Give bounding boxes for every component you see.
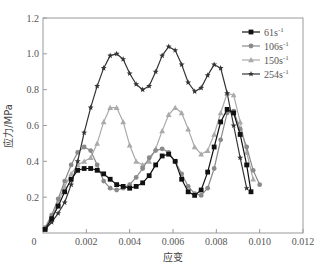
square-marker bbox=[62, 189, 67, 194]
circle-marker bbox=[244, 145, 249, 150]
star-marker bbox=[62, 199, 68, 205]
square-marker bbox=[49, 216, 54, 221]
legend-label: 150s-1 bbox=[264, 54, 289, 66]
square-marker bbox=[114, 182, 119, 187]
circle-marker bbox=[62, 179, 67, 184]
circle-marker bbox=[218, 137, 223, 142]
x-tick-label: 0.012 bbox=[292, 236, 315, 247]
star-marker bbox=[107, 53, 113, 59]
triangle-marker bbox=[211, 132, 217, 137]
square-marker bbox=[140, 180, 145, 185]
circle-marker bbox=[140, 166, 145, 171]
x-tick-label: 0.002 bbox=[75, 236, 98, 247]
y-tick-label: 0.6 bbox=[27, 120, 40, 131]
circle-marker bbox=[205, 186, 210, 191]
square-marker bbox=[166, 152, 171, 157]
y-tick-label: 0.2 bbox=[27, 192, 40, 203]
y-tick-label: 0.4 bbox=[27, 156, 40, 167]
square-marker bbox=[192, 193, 197, 198]
square-marker bbox=[249, 189, 254, 194]
legend-item: 106s-1 bbox=[242, 40, 289, 52]
stress-strain-chart: 0.0020.0040.0060.0080.0100.0120.20.40.60… bbox=[0, 0, 325, 274]
legend-label: 106s-1 bbox=[264, 40, 289, 52]
circle-marker bbox=[82, 145, 87, 150]
star-marker bbox=[185, 79, 191, 85]
legend-label: 61s-1 bbox=[264, 26, 284, 38]
circle-marker bbox=[251, 168, 256, 173]
triangle-marker bbox=[185, 126, 191, 131]
triangle-marker bbox=[205, 148, 211, 153]
square-marker bbox=[160, 154, 165, 159]
y-tick-label: 1.0 bbox=[27, 48, 40, 59]
square-marker bbox=[212, 145, 217, 150]
triangle-marker bbox=[133, 158, 139, 163]
square-marker bbox=[238, 132, 243, 137]
y-tick-label: 1.2 bbox=[27, 13, 40, 24]
square-marker bbox=[75, 168, 80, 173]
square-marker bbox=[127, 186, 132, 191]
square-marker bbox=[186, 189, 191, 194]
series-254s bbox=[42, 44, 249, 232]
square-marker bbox=[147, 173, 152, 178]
triangle-marker bbox=[192, 144, 198, 149]
triangle-marker bbox=[101, 119, 107, 124]
circle-marker bbox=[69, 163, 74, 168]
circle-marker bbox=[212, 166, 217, 171]
square-marker bbox=[179, 177, 184, 182]
triangle-marker bbox=[159, 128, 165, 133]
legend-item: 254s-1 bbox=[242, 68, 289, 80]
square-marker bbox=[56, 204, 61, 209]
square-marker bbox=[173, 159, 178, 164]
circle-marker bbox=[257, 182, 262, 187]
triangle-marker bbox=[250, 176, 256, 181]
triangle-marker bbox=[81, 158, 87, 163]
square-marker bbox=[101, 171, 106, 176]
legend-label: 254s-1 bbox=[264, 68, 289, 80]
circle-marker bbox=[199, 193, 204, 198]
circle-marker bbox=[160, 146, 165, 151]
square-marker bbox=[249, 30, 254, 35]
circle-marker bbox=[101, 179, 106, 184]
circle-marker bbox=[95, 163, 100, 168]
square-marker bbox=[231, 111, 236, 116]
triangle-marker bbox=[172, 105, 178, 110]
square-marker bbox=[108, 177, 113, 182]
square-marker bbox=[134, 184, 139, 189]
x-tick-label: 0.010 bbox=[248, 236, 271, 247]
x-tick-label: 0.006 bbox=[162, 236, 185, 247]
square-marker bbox=[69, 177, 74, 182]
square-marker bbox=[199, 188, 204, 193]
square-marker bbox=[121, 184, 126, 189]
circle-marker bbox=[108, 186, 113, 191]
square-marker bbox=[88, 166, 93, 171]
y-axis-title: 应力/MPa bbox=[2, 104, 14, 148]
star-marker bbox=[248, 71, 254, 77]
square-marker bbox=[244, 163, 249, 168]
circle-marker bbox=[153, 148, 158, 153]
legend-item: 150s-1 bbox=[242, 54, 289, 66]
square-marker bbox=[82, 166, 87, 171]
origin-label: 0 bbox=[32, 236, 37, 247]
circle-marker bbox=[88, 148, 93, 153]
x-tick-label: 0.008 bbox=[205, 236, 228, 247]
square-marker bbox=[218, 120, 223, 125]
square-marker bbox=[95, 168, 100, 173]
x-tick-label: 0.004 bbox=[118, 236, 141, 247]
series-layer bbox=[42, 44, 262, 232]
circle-marker bbox=[134, 175, 139, 180]
x-axis-title: 应变 bbox=[163, 251, 183, 263]
square-marker bbox=[205, 170, 210, 175]
square-marker bbox=[43, 227, 48, 232]
circle-marker bbox=[114, 188, 119, 193]
circle-marker bbox=[249, 44, 254, 49]
square-marker bbox=[225, 107, 230, 112]
legend: 61s-1106s-1150s-1254s-1 bbox=[242, 26, 289, 80]
y-tick-label: 0.8 bbox=[27, 84, 40, 95]
triangle-marker bbox=[94, 141, 100, 146]
circle-marker bbox=[147, 155, 152, 160]
triangle-marker bbox=[218, 110, 224, 115]
circle-marker bbox=[56, 197, 61, 202]
star-marker bbox=[172, 47, 178, 53]
triangle-marker bbox=[127, 142, 133, 147]
triangle-marker bbox=[120, 119, 126, 124]
